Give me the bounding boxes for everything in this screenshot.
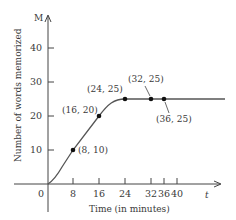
y-tick-label: 20 <box>30 110 42 121</box>
annotation-pointer <box>145 86 150 96</box>
x-tick-label: 40 <box>171 188 183 199</box>
x-tick-label: 24 <box>119 188 131 199</box>
y-axis-symbol: M <box>34 13 43 23</box>
annotation-label: (24, 25) <box>87 84 123 94</box>
chart: M t 10 20 30 40 0 8 16 24 32 36 40 Time … <box>0 0 236 220</box>
x-tick-label: 36 <box>158 188 170 199</box>
y-tick-label: 40 <box>30 42 42 53</box>
y-ticks: 10 20 30 40 <box>30 42 54 155</box>
x-axis-title: Time (in minutes) <box>89 204 170 214</box>
x-ticks: 0 8 16 24 32 36 40 <box>38 178 183 199</box>
x-tick-label: 8 <box>70 188 76 199</box>
x-tick-label: 0 <box>38 188 44 199</box>
annotation-label: (32, 25) <box>128 74 164 84</box>
x-tick-label: 16 <box>93 188 105 199</box>
y-tick-label: 30 <box>30 76 42 87</box>
annotation-label: (36, 25) <box>156 114 192 124</box>
x-tick-label: 32 <box>145 188 157 199</box>
annotation-label: (16, 20) <box>62 105 98 115</box>
x-axis-symbol: t <box>205 190 209 200</box>
annotation-label: (8, 10) <box>78 145 108 155</box>
y-tick-label: 10 <box>30 144 42 155</box>
y-axis-title: Number of words memorized <box>13 28 23 162</box>
annotation-pointer <box>165 102 169 113</box>
